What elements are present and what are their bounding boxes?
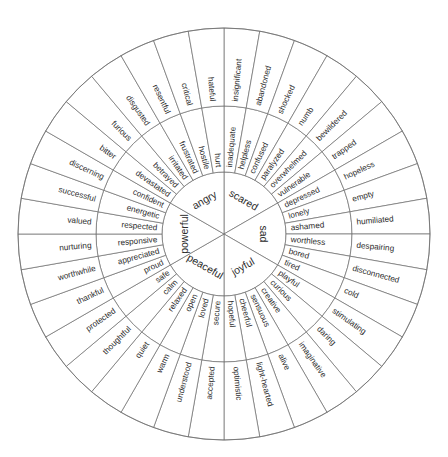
core-emotion-label-powerful: powerful <box>178 214 190 254</box>
wheel-sector-shapes <box>18 28 430 440</box>
emotion-wheel-diagram: scaredinadequateinsignificanthelplessaba… <box>0 0 448 457</box>
core-emotion-label-sad: sad <box>258 226 270 243</box>
middle-emotion-label-hurt: hurt <box>213 153 223 169</box>
emotion-wheel-container: scaredinadequateinsignificanthelplessaba… <box>0 0 448 457</box>
